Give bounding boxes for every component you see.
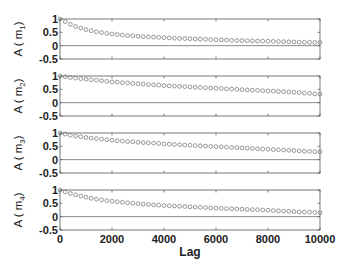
data-point <box>63 190 67 194</box>
data-point <box>157 142 161 146</box>
x-tick-label: 4000 <box>152 233 176 245</box>
data-point <box>225 87 229 91</box>
data-point <box>173 84 177 88</box>
data-point <box>214 86 218 90</box>
data-point <box>251 147 255 151</box>
data-point <box>100 31 104 35</box>
data-point <box>74 25 78 29</box>
data-point <box>209 86 213 90</box>
data-point <box>162 36 166 40</box>
data-point <box>178 204 182 208</box>
data-point <box>193 205 197 209</box>
data-point <box>74 76 78 80</box>
data-point <box>292 90 296 94</box>
data-point <box>100 137 104 141</box>
data-point <box>261 147 265 151</box>
data-point <box>308 91 312 95</box>
data-point <box>84 28 88 32</box>
x-tick-label: 0 <box>57 233 63 245</box>
data-point <box>292 210 296 214</box>
data-point <box>251 88 255 92</box>
data-point <box>79 77 83 81</box>
data-point <box>69 22 73 26</box>
data-point <box>121 139 125 143</box>
data-point <box>152 203 156 207</box>
data-point <box>126 140 130 144</box>
x-tick-label: 8000 <box>256 233 280 245</box>
axes-box <box>60 190 320 230</box>
data-point <box>308 40 312 44</box>
data-point <box>204 206 208 210</box>
data-point <box>63 75 67 79</box>
data-point <box>245 208 249 212</box>
data-point <box>95 30 99 34</box>
data-point <box>214 145 218 149</box>
y-tick-label: 0 <box>52 154 58 166</box>
data-point <box>89 196 93 200</box>
data-point <box>115 80 119 84</box>
data-point <box>240 88 244 92</box>
data-point <box>261 208 265 212</box>
data-point <box>183 37 187 41</box>
data-point <box>84 136 88 140</box>
data-point <box>136 140 140 144</box>
axes-box <box>60 19 320 59</box>
data-point <box>240 146 244 150</box>
data-point <box>277 40 281 44</box>
data-point <box>131 82 135 86</box>
y-axis-label-m1: A ( m1) <box>12 21 27 56</box>
data-point <box>115 139 119 143</box>
data-point <box>303 149 307 153</box>
subplot-stack: -0.500.51A ( m1)-0.500.51A ( m2)-0.500.5… <box>12 13 335 245</box>
data-point <box>162 204 166 208</box>
data-point <box>235 207 239 211</box>
data-point <box>183 205 187 209</box>
data-point <box>204 86 208 90</box>
data-point <box>141 202 145 206</box>
data-point <box>74 193 78 197</box>
data-point <box>141 141 145 145</box>
data-point <box>147 141 151 145</box>
data-point <box>141 35 145 39</box>
data-point <box>188 205 192 209</box>
data-point <box>157 36 161 40</box>
data-point <box>214 206 218 210</box>
data-point <box>188 85 192 89</box>
data-point <box>89 29 93 33</box>
data-point <box>209 144 213 148</box>
data-point <box>230 38 234 42</box>
series-markers-m1 <box>58 17 322 44</box>
data-point <box>277 148 281 152</box>
y-axis-label-m2: A ( m2) <box>12 78 27 113</box>
data-point <box>110 138 114 142</box>
y-axis-label-m3: A ( m3) <box>12 135 27 170</box>
y-tick-label: -0.5 <box>39 53 58 65</box>
data-point <box>245 39 249 43</box>
data-point <box>89 136 93 140</box>
subplot-m3: -0.500.51A ( m3) <box>12 127 322 179</box>
data-point <box>100 198 104 202</box>
data-point <box>297 91 301 95</box>
y-axis-label-m4: A ( m4) <box>12 192 27 227</box>
data-point <box>287 40 291 44</box>
data-point <box>214 38 218 42</box>
data-point <box>219 145 223 149</box>
data-point <box>245 88 249 92</box>
data-point <box>199 86 203 90</box>
data-point <box>266 89 270 93</box>
data-point <box>131 140 135 144</box>
data-point <box>157 83 161 87</box>
subplot-m1: -0.500.51A ( m1) <box>12 13 322 65</box>
data-point <box>230 87 234 91</box>
data-point <box>209 38 213 42</box>
data-point <box>204 37 208 41</box>
y-tick-label: -0.5 <box>39 224 58 236</box>
data-point <box>193 144 197 148</box>
data-point <box>209 206 213 210</box>
data-point <box>235 87 239 91</box>
data-point <box>147 203 151 207</box>
data-point <box>230 207 234 211</box>
data-point <box>115 200 119 204</box>
data-point <box>193 37 197 41</box>
data-point <box>105 79 109 83</box>
